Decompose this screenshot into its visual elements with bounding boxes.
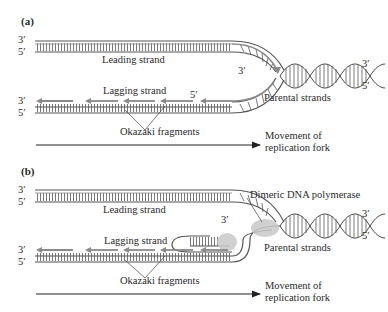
parental-strands-label: Parental strands — [264, 93, 331, 104]
lagging-5prime-label: 5′ — [18, 108, 26, 119]
leading-5prime-label-b: 5′ — [18, 197, 26, 208]
parental-5prime-label-b: 5′ — [362, 231, 370, 242]
leading-3prime-label: 3′ — [18, 35, 26, 46]
lagging-strand-label-b: Lagging strand — [104, 236, 167, 247]
lagging-3prime-label-b: 3′ — [18, 245, 26, 256]
panel-a — [35, 41, 385, 145]
lagging-fork-5prime-label: 5′ — [190, 90, 198, 101]
okazaki-fragments-label-b: Okazaki fragments — [120, 276, 200, 287]
movement-label-line1-b: Movement of — [265, 281, 322, 292]
dimeric-polymerase-label: Dimeric DNA polymerase — [250, 190, 360, 201]
movement-label-line2-b: replication fork — [265, 293, 330, 304]
fork-3prime-label: 3′ — [238, 66, 246, 77]
movement-label-line2: replication fork — [265, 143, 330, 154]
panel-b-label: (b) — [21, 166, 34, 177]
okazaki-fragments-label: Okazaki fragments — [120, 127, 200, 138]
lagging-3prime-label: 3′ — [18, 96, 26, 107]
panel-a-label: (a) — [21, 16, 34, 27]
lagging-5prime-label-b: 5′ — [18, 257, 26, 268]
movement-label-line1: Movement of — [265, 131, 322, 142]
parental-5prime-label: 5′ — [362, 81, 370, 92]
lagging-strand-label: Lagging strand — [103, 86, 166, 97]
dna-replication-diagram — [0, 0, 388, 312]
leading-strand-label: Leading strand — [102, 55, 165, 66]
panel-b — [35, 190, 385, 294]
parental-3prime-label-b: 3′ — [362, 209, 370, 220]
leading-5prime-label: 5′ — [18, 47, 26, 58]
fork-3prime-label-b: 3′ — [221, 215, 229, 226]
parental-3prime-label: 3′ — [362, 59, 370, 70]
parental-strands-label-b: Parental strands — [264, 243, 331, 254]
leading-strand-label-b: Leading strand — [103, 205, 166, 216]
leading-3prime-label-b: 3′ — [18, 185, 26, 196]
